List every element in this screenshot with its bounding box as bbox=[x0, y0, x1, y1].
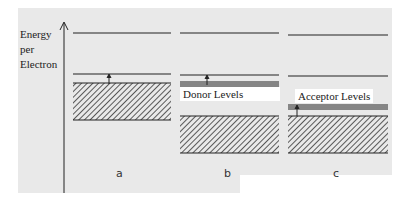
donor-levels-label: Donor Levels bbox=[180, 87, 280, 101]
energy-axis-arrow bbox=[60, 22, 68, 193]
panel-c-letter: c bbox=[333, 167, 339, 180]
acceptor-levels-label: Acceptor Levels bbox=[295, 89, 373, 103]
energy-band-diagram: Energy per Electron bbox=[0, 0, 411, 205]
panel-b-letter: b bbox=[224, 167, 231, 180]
panel-a-letter: a bbox=[116, 167, 123, 180]
panel-a bbox=[73, 33, 171, 120]
